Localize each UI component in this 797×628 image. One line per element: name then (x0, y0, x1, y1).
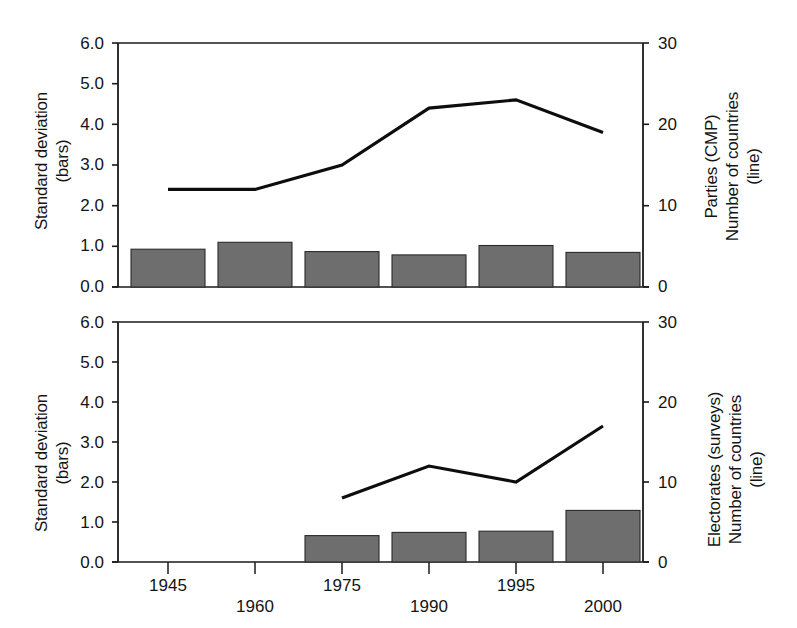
top-bar-2000 (566, 252, 640, 287)
top-bar-1995 (479, 246, 553, 288)
bottom-bar-1990 (392, 532, 466, 562)
bottom-countries-line (342, 426, 603, 498)
top-countries-line (168, 100, 603, 189)
bottom-bar-1975 (305, 536, 379, 562)
bottom-plot (0, 310, 797, 628)
bottom-panel: Standard deviation (bars) Electorates (s… (0, 310, 797, 628)
bottom-bar-1995 (479, 531, 553, 562)
chart-figure: Standard deviation (bars) Parties (CMP) … (0, 0, 797, 628)
top-bar-1990 (392, 255, 466, 287)
top-plot (0, 0, 797, 310)
top-bar-1960 (218, 242, 292, 287)
top-bar-1975 (305, 252, 379, 287)
top-panel: Standard deviation (bars) Parties (CMP) … (0, 0, 797, 310)
bottom-bar-2000 (566, 510, 640, 562)
top-bar-1945 (131, 249, 205, 287)
